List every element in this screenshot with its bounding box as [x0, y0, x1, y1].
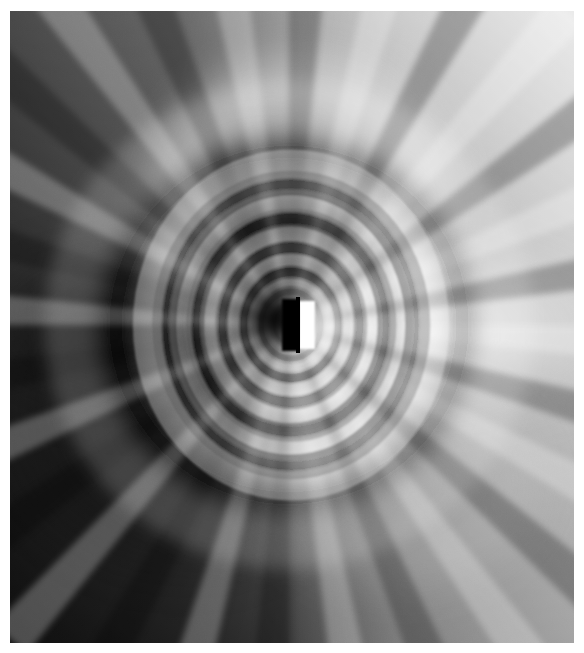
dither-noise-overlay — [10, 11, 574, 643]
plot-area — [10, 11, 574, 643]
field-image — [10, 11, 574, 643]
figure-root: Grayscale domain-coloring style plot of … — [0, 0, 584, 653]
